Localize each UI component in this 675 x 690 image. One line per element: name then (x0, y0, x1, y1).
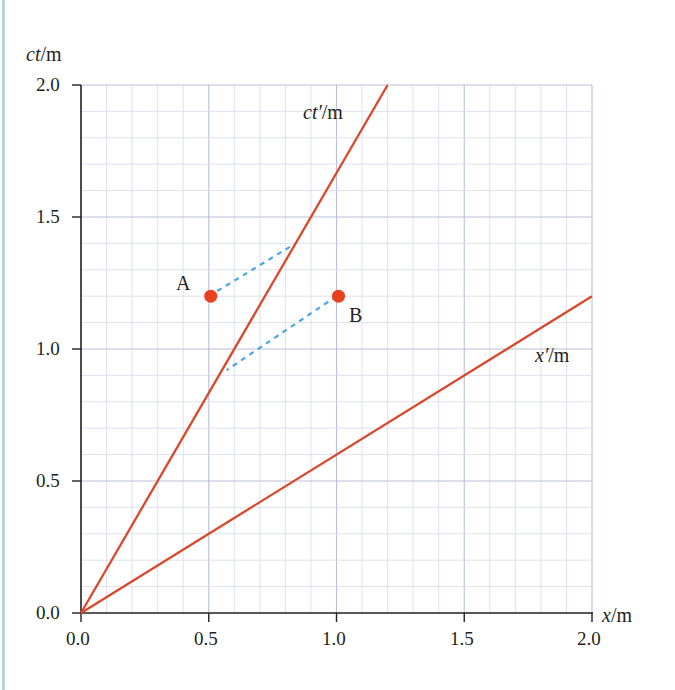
x-tick-label: 2.0 (577, 628, 601, 649)
axis-ticks (72, 85, 592, 622)
event-b-label: B (349, 304, 362, 326)
y-tick-label: 1.0 (36, 338, 60, 359)
x-prime-axis-label: x′/m (534, 344, 570, 366)
event-a-marker (204, 290, 217, 303)
event-a-label: A (176, 272, 191, 294)
ct-prime-axis-label: ct′/m (303, 101, 343, 123)
y-tick-label: 0.5 (36, 470, 60, 491)
projection-lines (209, 243, 337, 370)
y-tick-label: 0.0 (36, 602, 60, 623)
x-axis-title: x/m (601, 604, 632, 626)
y-tick-label: 2.0 (36, 74, 60, 95)
x-tick-label: 0.0 (66, 628, 90, 649)
y-tick-label: 1.5 (36, 206, 60, 227)
x-tick-label: 1.0 (322, 628, 346, 649)
event-b-marker (332, 290, 345, 303)
x-tick-label: 1.5 (450, 628, 474, 649)
x-tick-label: 0.5 (194, 628, 218, 649)
spacetime-diagram: 2.0 1.5 1.0 0.5 0.0 0.0 0.5 1.0 1.5 2.0 … (0, 0, 675, 690)
grid (81, 85, 592, 613)
y-axis-title: ct/m (26, 43, 62, 65)
